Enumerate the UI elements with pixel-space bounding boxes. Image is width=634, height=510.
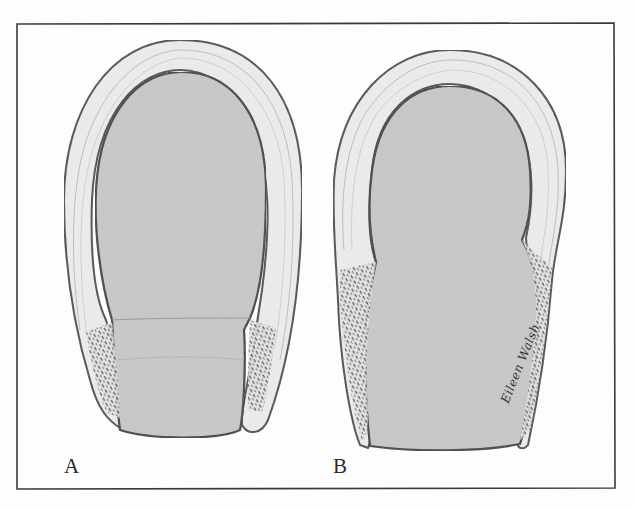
panel-a-lumen: [96, 72, 266, 438]
panel-b-drawing: [333, 50, 566, 450]
panel-a-drawing: [64, 40, 302, 438]
panel-a-label: A: [64, 456, 79, 477]
medical-illustration: [0, 0, 634, 510]
panel-b-label: B: [333, 456, 347, 477]
